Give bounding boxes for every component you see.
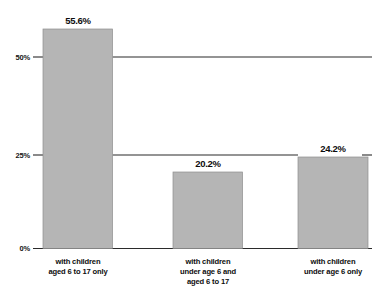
value-label-1: 20.2% <box>195 158 221 169</box>
ytick-label-50: 50% <box>16 53 31 62</box>
bar-chart: 50% 25% 0% 55.6% 20.2% 24.2% with childr… <box>0 0 392 303</box>
bar-0 <box>43 29 113 249</box>
category-label-0-line1: with children <box>55 257 101 266</box>
bar-2 <box>298 157 368 249</box>
ytick-label-25: 25% <box>16 151 31 160</box>
category-label-2-line2: under age 6 only <box>304 267 363 276</box>
bar-1 <box>173 172 243 249</box>
category-label-2-line1: with children <box>310 257 356 266</box>
category-label-1-line2: under age 6 and <box>180 267 236 276</box>
ytick-label-0: 0% <box>20 244 31 253</box>
category-label-1-line1: with children <box>185 257 231 266</box>
value-label-2: 24.2% <box>320 143 346 154</box>
chart-canvas: 50% 25% 0% 55.6% 20.2% 24.2% with childr… <box>0 0 392 303</box>
value-label-0: 55.6% <box>65 15 91 26</box>
category-label-1-line3: aged 6 to 17 <box>187 277 229 286</box>
category-label-0-line2: aged 6 to 17 only <box>48 267 108 276</box>
